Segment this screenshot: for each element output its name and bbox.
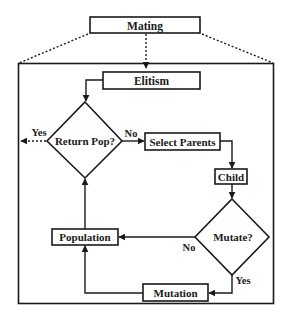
mutate-decision: Mutate?: [195, 199, 269, 275]
mutation-node: Mutation: [143, 284, 208, 301]
select-parents-label: Select Parents: [149, 136, 216, 148]
mutate-label: Mutate?: [213, 231, 253, 243]
population-label: Population: [59, 231, 110, 243]
child-label: Child: [218, 171, 244, 183]
edge-select-child: [220, 141, 232, 168]
edge-mutate-yes: [209, 275, 232, 293]
select-parents-node: Select Parents: [145, 133, 220, 150]
mating-node: Mating: [90, 17, 200, 33]
mating-label: Mating: [127, 20, 163, 33]
edge-mutation-population: [85, 246, 143, 293]
return-no-label: No: [125, 128, 138, 139]
return-pop-decision: Return Pop?: [47, 102, 122, 178]
child-node: Child: [215, 169, 247, 184]
elitism-node: Elitism: [103, 72, 200, 89]
return-pop-label: Return Pop?: [55, 135, 115, 147]
flowchart: Mating Elitism Return Pop? Yes No Select…: [0, 0, 288, 320]
population-node: Population: [52, 229, 118, 245]
return-yes-label: Yes: [31, 127, 46, 138]
elitism-label: Elitism: [134, 75, 170, 87]
mutate-no-label: No: [183, 242, 196, 253]
mutate-yes-label: Yes: [235, 275, 250, 286]
mutation-label: Mutation: [154, 287, 198, 299]
edge-elitism-return: [86, 80, 103, 101]
